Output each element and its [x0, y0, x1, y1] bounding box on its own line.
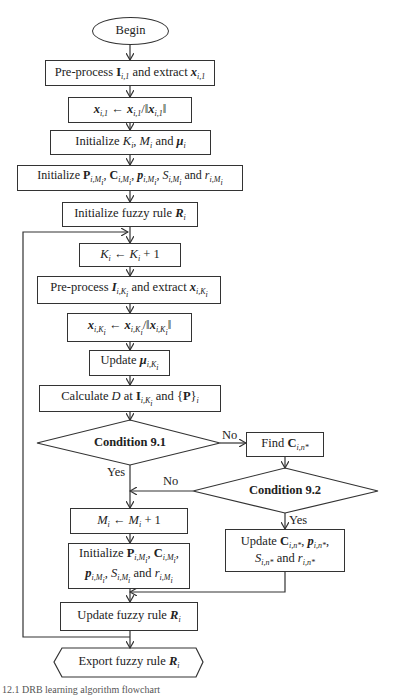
preprocess-k-node: Pre-process Ii,Ki and extract xi,Ki	[37, 276, 221, 304]
normalize-k-node: xi,Ki ← xi,Ki/‖xi,Ki‖	[67, 313, 192, 342]
export-rule-node: Export fuzzy rule Ri	[62, 649, 196, 676]
cond92-no-label: No	[163, 474, 178, 489]
preprocess-label: Pre-process	[55, 65, 113, 79]
initialize-label: Initialize	[74, 206, 118, 220]
begin-node: Begin	[92, 17, 169, 45]
update-label: Update	[241, 534, 277, 548]
preprocess-label: Pre-process	[50, 280, 108, 294]
init-new-cluster-node: Initialize Pi,Mi, Ci,Mi,pi,Mi, Si,Mi and…	[68, 543, 190, 589]
preprocess-first-node: Pre-process Ii,1 and extract xi,1	[45, 60, 215, 86]
initialize-label: Initialize	[37, 168, 80, 182]
increment-m-node: Mi ← Mi + 1	[70, 508, 188, 534]
and-label: and	[156, 389, 174, 403]
fuzzy-rule-label: fuzzy rule	[122, 206, 172, 220]
update-mu-node: Update μi,Ki	[89, 350, 170, 376]
cond91-no-label: No	[222, 428, 237, 443]
and-extract-label: and extract	[131, 280, 186, 294]
and-label: and	[155, 134, 173, 148]
at-label: at	[124, 389, 133, 403]
update-label: Update	[101, 353, 137, 367]
and-extract-label: and extract	[132, 65, 187, 79]
condition-9-1-label: Condition 9.1	[80, 435, 180, 450]
flowchart-connectors	[0, 0, 394, 696]
begin-label: Begin	[116, 23, 146, 39]
and-label: and	[277, 551, 295, 565]
plus-one-label: + 1	[144, 513, 160, 527]
update-c-node: Update Ci,n*, pi,n*,Si,n* and ri,n*	[225, 529, 345, 572]
export-label: Export	[78, 654, 112, 668]
find-label: Find	[261, 436, 284, 450]
init-rule-node: Initialize fuzzy rule Ri	[62, 202, 198, 227]
condition-9-2-label: Condition 9.2	[235, 483, 335, 498]
normalize-first-node: xi,1 ← xi,1/‖xi,1‖	[68, 97, 192, 123]
initialize-label: Initialize	[75, 134, 119, 148]
init-k-m-mu-node: Initialize Ki, Mi and μi	[50, 130, 211, 155]
find-c-node: Find Ci,n*	[246, 432, 324, 457]
calculate-d-node: Calculate D at Ii,Ki and {P}i	[39, 385, 221, 412]
update-rule-node: Update fuzzy rule Ri	[60, 602, 198, 631]
initialize-label: Initialize	[79, 546, 123, 560]
cond91-yes-label: Yes	[107, 465, 125, 480]
update-label: Update	[77, 608, 113, 622]
cond92-yes-label: Yes	[289, 513, 307, 528]
plus-one-label: + 1	[143, 247, 159, 261]
fuzzy-rule-label: fuzzy rule	[116, 654, 166, 668]
and-label: and	[133, 566, 151, 580]
fuzzy-rule-label: fuzzy rule	[117, 608, 167, 622]
figure-caption: 12.1 DRB learning algorithm flowchart	[2, 684, 160, 695]
and-label: and	[185, 168, 202, 182]
calculate-label: Calculate	[61, 389, 108, 403]
init-params-node: Initialize Pi,Mi, Ci,Mi, pi,Mi, Si,Mi an…	[17, 165, 243, 191]
increment-k-node: Ki ← Ki + 1	[79, 243, 181, 267]
